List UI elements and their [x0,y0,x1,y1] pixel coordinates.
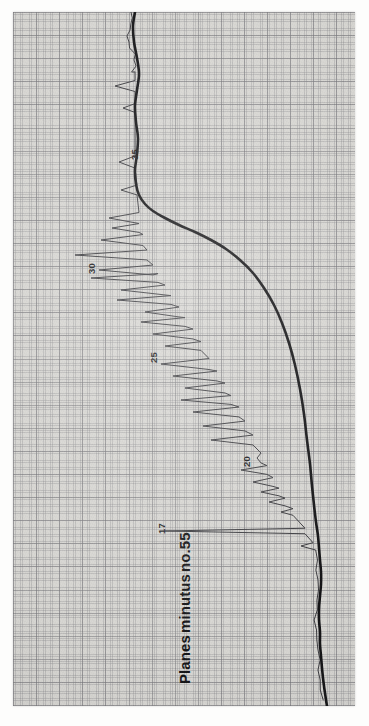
peak-label-35: 35 [130,149,140,160]
caption-line-3: no.55 [176,532,193,572]
specimen-caption: Planes minutus no.55 [176,532,193,684]
graph-paper-sheet: 3530252017 Planes minutus no.55 [13,12,355,706]
peak-label-17: 17 [157,523,167,534]
detector-signal-peaks [75,12,323,700]
scanned-chromatogram-page: 3530252017 Planes minutus no.55 [0,0,369,726]
baseline-envelope-curve [133,12,327,706]
caption-line-1: Planes [176,635,193,684]
peak-trace-path [75,72,323,700]
caption-line-2: minutus [176,574,193,633]
peak-label-25: 25 [149,352,159,363]
peak-label-30: 30 [87,263,97,274]
peak-label-20: 20 [242,456,252,467]
